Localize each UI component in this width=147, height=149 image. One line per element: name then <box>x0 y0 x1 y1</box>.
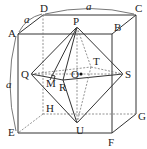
label-M: M <box>46 77 56 89</box>
edge-TS <box>91 67 123 74</box>
dimension-left-top: a <box>24 13 30 25</box>
label-U: U <box>76 124 84 136</box>
label-A: A <box>8 27 16 39</box>
label-S: S <box>125 68 131 80</box>
edge-TU <box>77 67 91 123</box>
label-E: E <box>8 126 15 138</box>
arc-left-top <box>19 14 42 32</box>
label-O: O <box>71 68 79 80</box>
label-C: C <box>135 2 142 14</box>
center-point-O <box>79 72 82 75</box>
edge-SU <box>77 74 123 123</box>
label-T: T <box>93 55 100 67</box>
edge-PT <box>77 27 91 67</box>
label-Q: Q <box>21 68 29 80</box>
diagram-canvas: A B C D E F G H P Q R S T U O M a a a <box>0 0 147 149</box>
label-R: R <box>59 81 67 93</box>
label-H: H <box>46 102 54 114</box>
edge-AD <box>18 15 43 34</box>
dimension-top: a <box>86 0 92 12</box>
label-G: G <box>138 110 146 122</box>
label-B: B <box>114 21 121 33</box>
label-P: P <box>73 15 79 27</box>
edge-HE <box>18 114 43 133</box>
label-D: D <box>40 2 48 14</box>
label-F: F <box>108 136 114 148</box>
edge-FG <box>112 114 136 133</box>
dimension-left-side: a <box>6 78 12 90</box>
cube-octahedron-diagram: A B C D E F G H P Q R S T U O M a a a <box>0 0 147 149</box>
